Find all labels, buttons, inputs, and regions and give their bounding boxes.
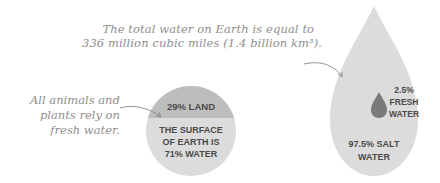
salt-label-line: WATER: [334, 151, 414, 164]
caption-line: All animals and: [30, 93, 120, 108]
land-label: 29% LAND: [151, 101, 231, 112]
arrow-to-drop: [304, 63, 342, 76]
caption-line: fresh water.: [30, 123, 120, 138]
total-water-caption: The total water on Earth is equal to 336…: [82, 22, 322, 50]
water-surface-label: THE SURFACE OF EARTH IS 71% WATER: [146, 124, 236, 160]
water-label-line: 71% WATER: [146, 148, 236, 160]
salt-label-line: 97.5% SALT: [334, 138, 414, 151]
caption-line: The total water on Earth is equal to: [82, 22, 322, 36]
caption-line: plants rely on: [30, 108, 120, 123]
salt-water-label: 97.5% SALT WATER: [334, 138, 414, 164]
fresh-label-line: WATER: [386, 108, 422, 120]
caption-line: 336 million cubic miles (1.4 billion km³…: [82, 36, 322, 50]
fresh-water-caption: All animals and plants rely on fresh wat…: [30, 93, 120, 138]
water-label-line: OF EARTH IS: [146, 136, 236, 148]
water-label-line: THE SURFACE: [146, 124, 236, 136]
fresh-label-line: 2.5%: [386, 84, 422, 96]
fresh-label-line: FRESH: [386, 96, 422, 108]
fresh-water-label: 2.5% FRESH WATER: [386, 84, 422, 120]
